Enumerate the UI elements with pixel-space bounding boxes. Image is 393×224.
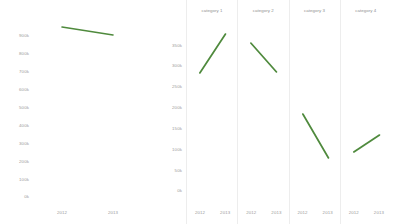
- x-tick-label: 2013: [220, 210, 230, 215]
- panel-series-line: [341, 18, 391, 204]
- chart-canvas: 900k 800k 700k 600k 500k 400k 300k 200k …: [0, 0, 393, 224]
- panel-x-axis: 2012 2013: [290, 210, 340, 218]
- panel-plot-area: [187, 18, 237, 204]
- y-tick-label: 250k: [172, 84, 182, 89]
- y-tick-label: 300k: [172, 63, 182, 68]
- panel-title: category 4: [341, 8, 391, 14]
- series-segment-total: [62, 27, 113, 35]
- panel-plot-area: [290, 18, 340, 204]
- y-tick-label: 200k: [172, 105, 182, 110]
- trellis-panels: category 1 2012 2013 category 2: [186, 0, 391, 224]
- x-tick-label: 2012: [195, 210, 205, 215]
- y-tick-label: 50k: [175, 168, 182, 173]
- trellis-panel-2: category 2 2012 2013: [237, 0, 288, 224]
- x-tick-label: 2013: [271, 210, 281, 215]
- trellis-y-axis: 350k 300k 250k 200k 150k 100k 50k 0k: [155, 0, 185, 224]
- series-segment-category-4: [354, 135, 380, 152]
- x-tick-label: 2012: [349, 210, 359, 215]
- overall-line-chart: 900k 800k 700k 600k 500k 400k 300k 200k …: [0, 0, 155, 224]
- trellis-panel-1: category 1 2012 2013: [186, 0, 237, 224]
- panel-x-axis: 2012 2013: [238, 210, 288, 218]
- series-segment-category-3: [302, 114, 328, 158]
- panel-title: category 2: [238, 8, 288, 14]
- x-tick-label: 2012: [246, 210, 256, 215]
- y-tick-label: 150k: [172, 126, 182, 131]
- trellis-panel-3: category 3 2012 2013: [289, 0, 340, 224]
- panel-title: category 1: [187, 8, 237, 14]
- overall-x-axis: 2012 2013: [0, 210, 155, 218]
- series-segment-category-1: [200, 34, 226, 73]
- x-tick-label: 2013: [374, 210, 384, 215]
- x-tick-label: 2012: [297, 210, 307, 215]
- panel-series-line: [187, 18, 237, 204]
- trellis-chart: 350k 300k 250k 200k 150k 100k 50k 0k cat…: [155, 0, 393, 224]
- overall-plot-area: [0, 0, 155, 224]
- panel-plot-area: [341, 18, 391, 204]
- trellis-panel-4: category 4 2012 2013: [340, 0, 391, 224]
- panel-series-line: [238, 18, 288, 204]
- panel-series-line: [290, 18, 340, 204]
- y-tick-label: 100k: [172, 147, 182, 152]
- y-tick-label: 0k: [177, 188, 182, 193]
- panel-x-axis: 2012 2013: [187, 210, 237, 218]
- y-tick-label: 350k: [172, 43, 182, 48]
- panel-title: category 3: [290, 8, 340, 14]
- x-tick-label: 2013: [108, 210, 118, 215]
- x-tick-label: 2013: [323, 210, 333, 215]
- overall-series-line: [0, 0, 155, 224]
- panel-plot-area: [238, 18, 288, 204]
- panel-x-axis: 2012 2013: [341, 210, 391, 218]
- series-segment-category-2: [251, 43, 277, 72]
- x-tick-label: 2012: [57, 210, 67, 215]
